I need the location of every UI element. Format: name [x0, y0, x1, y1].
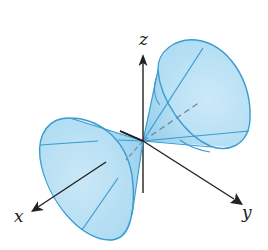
y-axis-label: y — [241, 202, 252, 222]
double-cone-diagram: z y x — [0, 0, 268, 250]
x-arrowhead-icon — [31, 201, 44, 212]
z-axis-label: z — [138, 29, 149, 49]
x-axis-label: x — [14, 206, 24, 226]
lower-cone — [40, 118, 143, 241]
upper-cone — [143, 40, 250, 152]
